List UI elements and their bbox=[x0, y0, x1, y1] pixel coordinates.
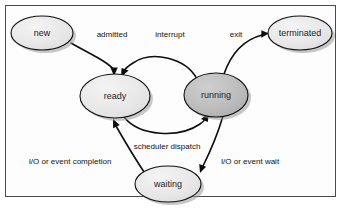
edge-admitted-label: admitted bbox=[97, 30, 128, 39]
edge-exit-path bbox=[224, 35, 262, 74]
edge-interrupt-path bbox=[123, 57, 197, 79]
node-ready[interactable]: ready bbox=[80, 74, 153, 121]
edge-admitted-path bbox=[71, 43, 114, 70]
node-terminated[interactable]: terminated bbox=[268, 16, 335, 53]
node-waiting[interactable]: waiting bbox=[135, 166, 204, 205]
edge-io-event-completion: I/O or event completion bbox=[29, 119, 146, 175]
edge-io-event-wait-label: I/O or event wait bbox=[221, 157, 280, 166]
node-waiting-label: waiting bbox=[153, 179, 182, 189]
node-terminated-label: terminated bbox=[279, 28, 322, 38]
edge-scheduler-dispatch-path bbox=[124, 117, 206, 133]
node-running-label: running bbox=[201, 90, 231, 100]
edge-scheduler-dispatch: scheduler dispatch bbox=[124, 113, 209, 151]
edge-exit: exit bbox=[224, 30, 269, 74]
edge-scheduler-dispatch-label: scheduler dispatch bbox=[134, 142, 201, 151]
node-new-label: new bbox=[34, 28, 51, 38]
diagram-page: admitted interrupt exit scheduler dispat… bbox=[0, 0, 343, 209]
edge-interrupt: interrupt bbox=[121, 30, 197, 79]
state-diagram: admitted interrupt exit scheduler dispat… bbox=[0, 0, 343, 209]
node-ready-label: ready bbox=[104, 91, 127, 101]
edge-io-event-wait: I/O or event wait bbox=[199, 116, 280, 173]
edge-interrupt-label: interrupt bbox=[155, 30, 185, 39]
edge-admitted: admitted bbox=[71, 30, 127, 76]
node-running[interactable]: running bbox=[184, 73, 251, 120]
node-new[interactable]: new bbox=[11, 16, 76, 53]
edge-io-event-completion-label: I/O or event completion bbox=[29, 157, 112, 166]
edge-exit-label: exit bbox=[230, 30, 243, 39]
